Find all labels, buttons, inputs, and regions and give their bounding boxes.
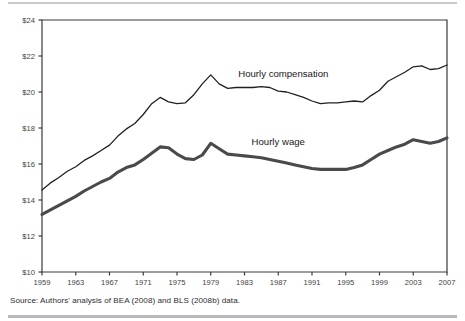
x-axis-tick-label: 1963 xyxy=(67,278,84,287)
y-axis-tick-label: $18 xyxy=(22,124,35,133)
x-axis-tick-label: 1987 xyxy=(270,278,287,287)
series-label-hourly-wage: Hourly wage xyxy=(252,136,305,147)
y-axis-tick-label: $20 xyxy=(22,88,35,97)
y-axis-tick-label: $10 xyxy=(22,268,35,277)
y-axis-tick-label: $12 xyxy=(22,232,35,241)
line-chart: $24$22$20$18$16$14$12$10 195919631967197… xyxy=(0,0,465,295)
chart-series-labels: Hourly compensationHourly wage xyxy=(231,68,336,149)
x-axis-tick-label: 2003 xyxy=(405,278,422,287)
x-axis-tick-label: 1975 xyxy=(169,278,186,287)
x-axis-tick-label: 1983 xyxy=(236,278,253,287)
x-axis-tick-label: 1991 xyxy=(304,278,321,287)
x-axis-tick-label: 1959 xyxy=(34,278,51,287)
y-axis-tick-label: $14 xyxy=(22,196,35,205)
x-axis-tick-label: 1967 xyxy=(101,278,118,287)
chart-plot-area: $24$22$20$18$16$14$12$10 195919631967197… xyxy=(0,0,465,295)
series-label-hourly-compensation: Hourly compensation xyxy=(238,68,328,79)
x-axis-tick-label: 1995 xyxy=(337,278,354,287)
bottom-divider-rule xyxy=(8,315,457,318)
y-axis-tick-label: $22 xyxy=(22,52,35,61)
x-axis-tick-label: 1979 xyxy=(202,278,219,287)
x-axis-tick-label: 1971 xyxy=(135,278,152,287)
x-axis-tick-label: 2007 xyxy=(439,278,456,287)
chart-series-lines xyxy=(42,65,447,214)
x-axis-tick-labels: 1959196319671971197519791983198719911995… xyxy=(34,278,456,287)
y-axis-tick-label: $24 xyxy=(22,16,35,25)
y-axis-tick-label: $16 xyxy=(22,160,35,169)
chart-axes xyxy=(39,20,448,276)
figure-panel: $24$22$20$18$16$14$12$10 195919631967197… xyxy=(0,0,465,321)
source-note: Source: Authors' analysis of BEA (2008) … xyxy=(10,296,240,305)
y-axis-tick-labels: $24$22$20$18$16$14$12$10 xyxy=(22,16,35,277)
x-axis-tick-label: 1999 xyxy=(371,278,388,287)
series-line-hourly-compensation xyxy=(42,65,447,190)
